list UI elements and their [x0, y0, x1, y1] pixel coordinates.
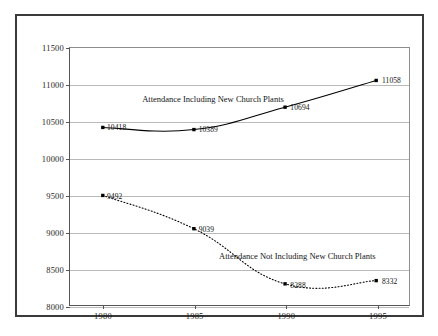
- data-point-label: 9039: [199, 226, 214, 234]
- data-point-label: 9492: [107, 193, 122, 201]
- gridline: [70, 307, 409, 308]
- data-point-marker: [192, 227, 195, 230]
- series-lines: [70, 48, 409, 305]
- series-line: [103, 195, 376, 288]
- y-tick-label: 10500: [42, 118, 64, 127]
- data-point-marker: [192, 128, 195, 131]
- y-tick-label: 10000: [42, 155, 64, 164]
- data-point-label: 10694: [290, 104, 309, 112]
- chart-frame: 800085009000950010000105001100011500 198…: [15, 14, 424, 317]
- data-point-marker: [283, 105, 286, 108]
- y-tick-label: 9000: [46, 229, 64, 238]
- y-tick-label: 8500: [46, 266, 64, 275]
- x-tick-label: 1980: [94, 312, 112, 321]
- x-tick-label: 1985: [186, 312, 204, 321]
- data-point-marker: [101, 126, 104, 129]
- x-tick-mark: [378, 305, 379, 309]
- x-tick-mark: [286, 305, 287, 309]
- data-point-label: 8288: [290, 282, 305, 290]
- x-tick-label: 1995: [369, 312, 387, 321]
- data-point-label: 8332: [382, 279, 397, 287]
- series-annotation-label: Attendance Not Including New Church Plan…: [219, 252, 376, 261]
- x-tick-label: 1990: [277, 312, 295, 321]
- plot-area: 800085009000950010000105001100011500 198…: [69, 47, 410, 306]
- x-tick-mark: [195, 305, 196, 309]
- data-point-label: 10389: [199, 126, 218, 134]
- series-line: [103, 80, 376, 131]
- y-tick-label: 9500: [46, 192, 64, 201]
- data-point-marker: [101, 194, 104, 197]
- y-tick-label: 8000: [46, 303, 64, 312]
- y-tick-mark: [66, 307, 70, 308]
- chart-figure: 800085009000950010000105001100011500 198…: [0, 0, 438, 336]
- y-tick-label: 11500: [42, 44, 64, 53]
- data-point-marker: [375, 79, 378, 82]
- data-point-marker: [283, 282, 286, 285]
- data-point-label: 10418: [107, 124, 126, 132]
- y-tick-label: 11000: [42, 81, 64, 90]
- series-annotation-label: Attendance Including New Church Plants: [142, 95, 284, 104]
- data-point-label: 11058: [382, 77, 401, 85]
- x-tick-mark: [103, 305, 104, 309]
- data-point-marker: [375, 279, 378, 282]
